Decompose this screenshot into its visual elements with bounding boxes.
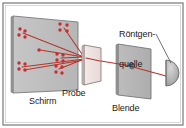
- diagram-canvas: [0, 0, 186, 128]
- label-xray-source-line2: quelle: [119, 59, 155, 69]
- label-screen: Schirm: [29, 96, 56, 106]
- label-xray-source-line1: Röntgen-: [119, 29, 155, 39]
- label-aperture: Blende: [112, 103, 139, 113]
- label-sample: Probe: [62, 88, 86, 98]
- sample-panel: [82, 45, 101, 85]
- xray-diffraction-diagram: Röntgen- quelle Schirm Probe Blende: [0, 0, 186, 128]
- label-xray-source: Röntgen- quelle: [119, 9, 155, 89]
